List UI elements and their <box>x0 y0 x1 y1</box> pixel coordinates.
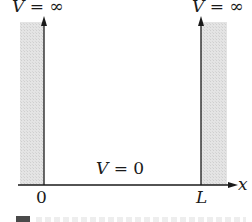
length-tick-label: L <box>196 189 207 206</box>
left-wall-potential-label: V = ∞ <box>12 0 64 15</box>
equals-sign: = <box>204 0 229 16</box>
right-wall-region <box>201 22 227 185</box>
potential-value: ∞ <box>49 0 63 16</box>
right-wall-potential-label: V = ∞ <box>192 0 244 15</box>
x-axis-label: x <box>238 176 248 193</box>
interior-potential-label: V = 0 <box>96 160 144 177</box>
infinite-square-well-diagram: V = ∞ V = ∞ V = 0 0 L x <box>0 0 252 222</box>
origin-tick-label: 0 <box>36 189 47 206</box>
potential-value: ∞ <box>229 0 243 16</box>
equals-sign: = <box>108 158 133 178</box>
potential-symbol: V <box>96 158 108 178</box>
left-wall-arrowhead-icon <box>41 16 47 26</box>
potential-symbol: V <box>192 0 204 16</box>
x-axis-arrowhead-icon <box>228 182 238 188</box>
right-wall-arrowhead-icon <box>198 16 204 26</box>
left-wall-region <box>20 22 44 185</box>
equals-sign: = <box>24 0 49 16</box>
caption-marker <box>16 216 30 222</box>
caption-truncated-text <box>36 217 246 222</box>
potential-symbol: V <box>12 0 24 16</box>
potential-value: 0 <box>133 158 144 178</box>
